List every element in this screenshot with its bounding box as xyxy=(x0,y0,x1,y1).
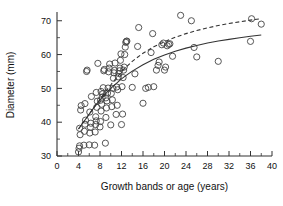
x-tick-label: 24 xyxy=(181,161,191,171)
x-tick-label: 40 xyxy=(267,161,277,171)
data-point xyxy=(108,122,114,128)
data-point xyxy=(78,103,84,109)
data-point xyxy=(103,114,109,120)
data-point xyxy=(140,100,146,106)
x-tick-label: 16 xyxy=(138,161,148,171)
y-tick-label: 60 xyxy=(41,50,51,60)
data-point xyxy=(248,16,254,22)
axes xyxy=(57,12,272,156)
data-point xyxy=(77,132,83,138)
x-tick-label: 36 xyxy=(245,161,255,171)
chart-figure: 0481216202428323640 3040506070 Growth ba… xyxy=(0,0,283,206)
data-point xyxy=(150,31,156,37)
x-tick-label: 12 xyxy=(116,161,126,171)
y-tick-label: 70 xyxy=(41,16,51,26)
data-point xyxy=(102,140,108,146)
data-point xyxy=(247,38,253,44)
y-axis-title: Diameter (mm) xyxy=(5,52,16,119)
y-tick-label: 40 xyxy=(41,117,51,127)
data-point xyxy=(132,71,138,77)
data-point xyxy=(258,21,264,27)
x-tick-label: 32 xyxy=(224,161,234,171)
y-tick-label: 50 xyxy=(41,84,51,94)
data-point xyxy=(135,43,141,49)
data-point xyxy=(194,54,200,60)
data-point xyxy=(119,111,125,117)
y-tick-label: 30 xyxy=(41,151,51,161)
data-point xyxy=(136,24,142,30)
x-tick-label: 28 xyxy=(202,161,212,171)
x-axis-title: Growth bands or age (years) xyxy=(101,181,228,192)
x-tick-label: 4 xyxy=(76,161,81,171)
x-tick-label: 8 xyxy=(97,161,102,171)
data-point xyxy=(118,121,124,127)
data-point xyxy=(178,12,184,18)
data-point xyxy=(148,49,154,55)
data-point xyxy=(93,114,99,120)
data-point xyxy=(82,100,88,106)
data-point xyxy=(117,57,123,63)
data-point xyxy=(188,18,194,24)
x-axis-ticks: 0481216202428323640 xyxy=(54,151,277,171)
x-tick-label: 20 xyxy=(159,161,169,171)
data-point xyxy=(122,51,128,57)
scatter-plot: 0481216202428323640 3040506070 Growth ba… xyxy=(0,0,283,206)
fit-curve-lower-fit xyxy=(79,35,262,129)
data-point xyxy=(95,60,101,66)
data-points xyxy=(75,12,264,155)
data-point xyxy=(169,53,175,59)
data-point xyxy=(113,111,119,117)
data-point xyxy=(215,58,221,64)
y-axis-ticks: 3040506070 xyxy=(41,16,62,161)
x-tick-label: 0 xyxy=(54,161,59,171)
data-point xyxy=(129,84,135,90)
